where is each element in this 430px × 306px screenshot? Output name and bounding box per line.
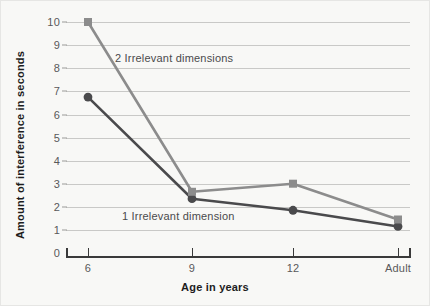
series-1-irrelevant-dimension: [84, 18, 402, 224]
data-point-square: [188, 188, 196, 196]
data-point-square: [394, 216, 402, 224]
data-point-circle: [289, 206, 298, 215]
series-layer: [0, 0, 430, 306]
series-annotation-2-dimensions: 2 Irrelevant dimensions: [115, 52, 233, 64]
series-annotation-1-dimension: 1 Irrelevant dimension: [122, 210, 235, 222]
chart-figure: 10 9 8 7 6 5 4 3 2 1 0 6 9 12 Adult 2 Ir…: [0, 0, 430, 306]
data-point-circle: [84, 93, 93, 102]
y-axis-title: Amount of interference in seconds: [14, 30, 26, 260]
data-point-square: [289, 180, 297, 188]
series-line: [88, 97, 398, 226]
x-axis-title: Age in years: [0, 281, 430, 293]
data-point-square: [84, 18, 92, 26]
